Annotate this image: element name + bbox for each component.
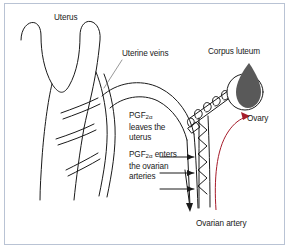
coiled-artery-outer-wall: [208, 116, 210, 207]
leader-line-uterine-veins: [104, 60, 122, 88]
uterine-vein-branch-2a: [56, 124, 94, 139]
uterus-outline: [21, 21, 100, 128]
artery-to-ovary-upper-wall: [190, 91, 228, 118]
red-ovary-arrow-shaft: [215, 117, 246, 210]
uterus-body-left-wall: [40, 84, 52, 200]
pgf-leaves-prefix: PGF: [129, 111, 146, 120]
uterine-vein-branch-3b: [68, 159, 100, 176]
flow-arrowhead-down: [186, 203, 193, 212]
artery-junction-box: [188, 122, 200, 133]
corpus-luteum-shape: [236, 63, 261, 108]
label-corpus-luteum: Corpus luteum: [208, 47, 260, 58]
transfer-arrowhead-2: [187, 170, 194, 176]
pgf-enters-prefix: PGF: [129, 150, 146, 159]
label-uterine-veins: Uterine veins: [122, 49, 168, 60]
label-ovary: Ovary: [247, 114, 268, 125]
uterine-vein-branch-2b: [58, 130, 96, 145]
label-pgf-enters-arteries: PGF2α enters the ovarian arteries: [129, 150, 177, 183]
label-pgf-leaves-uterus: PGF2α leaves the uterus: [129, 111, 175, 144]
uterine-vein-branch-1a: [61, 98, 98, 113]
pgf-leaves-subscript: 2α: [146, 113, 153, 120]
transfer-arrowhead-1: [187, 154, 194, 160]
red-ovary-arrow-group: [215, 112, 250, 210]
figure-root: Uterus Uterine veins Corpus luteum Ovary…: [0, 0, 289, 250]
label-ovarian-artery: Ovarian artery: [196, 219, 246, 230]
uterine-vein-trunk-outer: [96, 72, 107, 196]
pgf-leaves-rest: leaves the uterus: [129, 123, 165, 143]
ovarian-vein-right-wall: [194, 134, 198, 208]
uterine-vein-branch-1b: [63, 104, 100, 119]
label-uterus: Uterus: [54, 13, 78, 24]
uterine-vein-branch-3a: [66, 153, 98, 170]
